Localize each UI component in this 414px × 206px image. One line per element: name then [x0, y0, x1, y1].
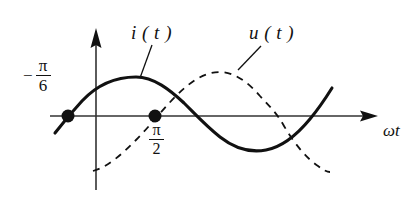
curve-u-t: [93, 72, 330, 172]
fraction-numerator: π: [37, 57, 50, 75]
fraction-denominator: 6: [37, 76, 50, 94]
fraction-pi-6: π 6: [36, 57, 51, 94]
x-axis-label: ωt: [383, 121, 400, 141]
leader-line-i: [140, 45, 152, 78]
marker-zero-crossing-i: [62, 110, 75, 123]
leader-line-u: [238, 46, 261, 70]
y-axis-arrowhead: [91, 28, 102, 48]
minus-sign: −: [23, 67, 33, 84]
curve-label-i: i ( t ): [131, 22, 172, 44]
plot-canvas: [0, 0, 414, 206]
phase-label-pi-over-2: π 2: [149, 122, 164, 157]
fraction-pi-2: π 2: [149, 122, 164, 157]
fraction-denominator: 2: [151, 140, 163, 157]
phase-label-minus-pi-over-6: − π 6: [23, 57, 51, 94]
fraction-numerator: π: [150, 122, 162, 139]
waveform-figure: i ( t ) u ( t ) ωt − π 6 π 2: [0, 0, 414, 206]
curve-label-u: u ( t ): [249, 22, 294, 44]
